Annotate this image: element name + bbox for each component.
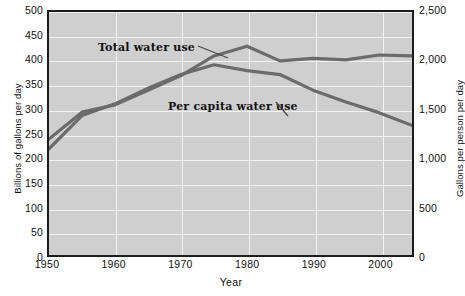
x-axis-tick-label: 1990	[302, 258, 327, 270]
y-axis-right-title: Gallons per person per day	[454, 59, 465, 219]
x-axis: 195019601970198019902000	[47, 258, 414, 274]
x-axis-tick-label: 1980	[235, 258, 260, 270]
x-axis-title: Year	[0, 276, 462, 288]
x-axis-tick-label: 2000	[368, 258, 393, 270]
y-axis-right-tick-label: 0	[419, 251, 459, 263]
x-axis-tick-label: 1960	[101, 258, 126, 270]
x-axis-tick-label: 1950	[35, 258, 60, 270]
y-axis-right-tick-label: 2,500	[419, 4, 459, 16]
x-axis-tick-label: 1970	[168, 258, 193, 270]
